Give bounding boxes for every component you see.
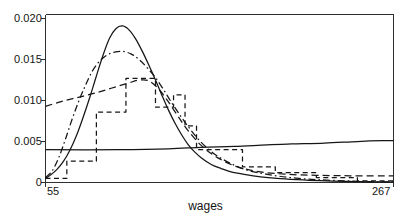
y-tick-label-1: 0.005 [0, 136, 42, 147]
chart-canvas [0, 0, 411, 224]
x-axis-title: wages [0, 200, 411, 212]
series-baseline-flat-solid [46, 141, 394, 150]
y-tick-label-0: 0 [0, 177, 42, 188]
density-plot-figure: 00.0050.0100.0150.020 55 267 wages [0, 0, 411, 224]
data-series-layer [46, 26, 394, 182]
y-tick-label-2: 0.010 [0, 95, 42, 106]
plot-frame [46, 15, 394, 183]
y-tick-label-3: 0.015 [0, 54, 42, 65]
axis-tick-marks [41, 19, 394, 187]
x-tick-label-min: 55 [47, 186, 59, 197]
x-tick-label-max: 267 [372, 186, 390, 197]
y-tick-label-4: 0.020 [0, 13, 42, 24]
series-histogram-step-dashed [46, 78, 394, 180]
series-parametric-dashed-smooth [46, 80, 394, 176]
